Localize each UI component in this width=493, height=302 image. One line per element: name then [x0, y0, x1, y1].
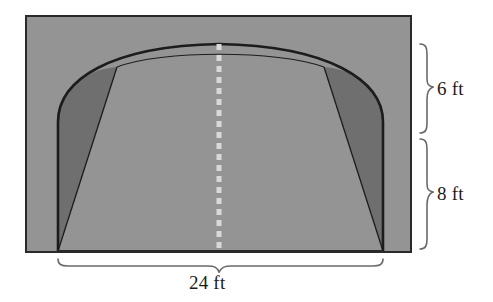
dimension-label-arch-height: 6 ft: [437, 78, 464, 100]
dimension-label-wall-height: 8 ft: [437, 183, 464, 205]
dimension-label-span-width: 24 ft: [189, 272, 225, 294]
figure-canvas: [0, 0, 493, 302]
geometry-figure: 6 ft 8 ft 24 ft: [0, 0, 493, 302]
